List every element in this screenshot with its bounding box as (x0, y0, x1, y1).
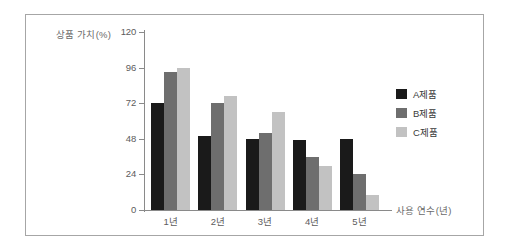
bar-C제품-3년 (272, 112, 285, 210)
y-axis-tick-label: 120 (100, 26, 136, 38)
y-axis-tick-label: 0 (100, 204, 136, 216)
bar-C제품-4년 (319, 166, 332, 211)
y-axis-tick-label-text: 48 (126, 133, 136, 144)
bar-C제품-2년 (224, 96, 237, 210)
legend-swatch-icon (396, 89, 407, 99)
legend-item-C제품: C제품 (396, 124, 438, 140)
plot-area (144, 32, 380, 210)
chart-figure: 상품 가치(%) 024487296120 1년2년3년4년5년 사용 연수(년… (0, 0, 509, 252)
x-axis-tick-label: 1년 (151, 214, 191, 228)
x-axis-tick-label: 5년 (339, 214, 379, 228)
legend-swatch-icon (396, 127, 407, 137)
legend-item-label: C제품 (413, 125, 438, 139)
y-axis-tick-label-text: 0 (131, 204, 136, 215)
legend-item-label: B제품 (413, 106, 437, 120)
bar-B제품-4년 (306, 157, 319, 210)
y-axis-tick-label-text: 24 (126, 168, 136, 179)
y-axis-tick-label-text: 120 (121, 26, 136, 37)
y-axis-tick-label: 96 (100, 62, 136, 74)
bar-A제품-1년 (151, 103, 164, 210)
x-axis-tick-label: 4년 (292, 214, 332, 228)
y-axis-tick-label: 24 (100, 168, 136, 180)
bar-A제품-4년 (293, 140, 306, 210)
legend-item-label: A제품 (413, 87, 437, 101)
y-axis-tick-label-text: 96 (126, 62, 136, 73)
bar-B제품-2년 (211, 103, 224, 210)
bar-B제품-5년 (353, 174, 366, 210)
legend-swatch-icon (396, 108, 407, 118)
y-axis-tick-label-text: 72 (126, 97, 136, 108)
bar-A제품-2년 (198, 136, 211, 210)
bar-C제품-1년 (177, 68, 190, 210)
legend-item-B제품: B제품 (396, 105, 438, 121)
bar-C제품-5년 (366, 195, 379, 210)
bar-B제품-3년 (259, 133, 272, 210)
bar-A제품-5년 (340, 139, 353, 210)
y-axis-tick-label: 48 (100, 133, 136, 145)
bar-B제품-1년 (164, 72, 177, 210)
y-axis-tick-label: 72 (100, 97, 136, 109)
x-axis-title: 사용 연수(년) (396, 203, 452, 217)
y-axis-tick-mark (139, 210, 145, 211)
chart-legend: A제품B제품C제품 (396, 86, 438, 143)
x-axis-tick-label: 3년 (245, 214, 285, 228)
legend-item-A제품: A제품 (396, 86, 438, 102)
x-axis-line (144, 210, 392, 211)
x-axis-tick-label: 2년 (198, 214, 238, 228)
bar-A제품-3년 (246, 139, 259, 210)
